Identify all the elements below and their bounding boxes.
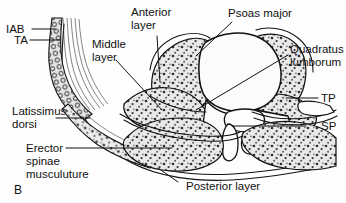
label-ta: TA [14,34,28,47]
label-erector-line3: musculuture [26,168,89,181]
label-sp: SP [321,120,336,133]
label-quadratus-line1: Quadratus [290,43,344,56]
panel-letter: B [14,183,22,197]
spinous-process [222,124,238,161]
label-quadratus-line2: lumborum [290,56,341,69]
label-tp: TP [321,92,336,105]
label-anterior-layer-line1: Anterior [131,6,171,19]
label-latissimus-line1: Latissimus [12,105,66,118]
anatomical-figure: IAB TA Middle layer Anterior layer Psoas… [0,0,346,203]
label-psoas-major: Psoas major [228,7,292,20]
label-middle-layer-line1: Middle [92,38,126,51]
label-erector-line1: Erector [26,142,63,155]
label-anterior-layer-line2: layer [131,19,156,32]
label-posterior-layer: Posterior layer [186,180,260,193]
vertebral-body [199,33,281,111]
label-latissimus-line2: dorsi [12,118,37,131]
label-erector-line2: spinae [26,155,60,168]
label-middle-layer-line2: layer [92,51,117,64]
